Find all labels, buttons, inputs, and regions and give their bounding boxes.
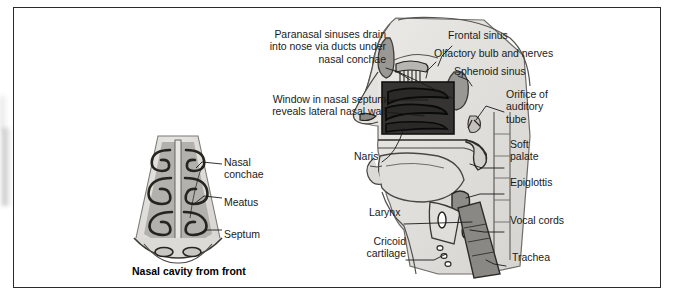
label-paranasal-sinuses: Paranasal sinuses drain into nose via du… [226, 28, 386, 65]
label-vocal-cords: Vocal cords [510, 214, 564, 226]
label-nasal-conchae: Nasal conchae [224, 156, 264, 181]
label-olfactory-bulb: Olfactory bulb and nerves [434, 47, 553, 59]
label-epiglottis: Epiglottis [510, 176, 552, 188]
left-panel-caption: Nasal cavity from front [132, 265, 246, 277]
label-naris: Naris [354, 150, 378, 162]
label-larynx: Larynx [369, 206, 400, 218]
scan-artifact-smudge [2, 128, 11, 206]
figure-border: Nasal conchae Meatus Septum Nasal cavity… [13, 7, 661, 288]
scan-artifact-smudge-secondary [0, 96, 7, 130]
figure-page: Nasal conchae Meatus Septum Nasal cavity… [0, 0, 677, 301]
label-trachea: Trachea [512, 251, 550, 263]
label-orifice-auditory-tube: Orifice of auditory tube [506, 88, 548, 125]
label-cricoid-cartilage: Cricoid cartilage [344, 235, 406, 260]
label-soft-palate: Soft palate [510, 138, 539, 163]
label-sphenoid-sinus: Sphenoid sinus [454, 65, 526, 77]
label-frontal-sinus: Frontal sinus [448, 29, 508, 41]
label-window-nasal-septum: Window in nasal septum reveals lateral n… [216, 93, 386, 118]
label-meatus: Meatus [224, 196, 258, 208]
label-septum: Septum [224, 228, 260, 240]
